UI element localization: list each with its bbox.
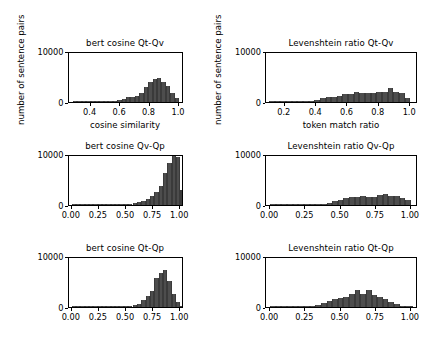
y-tick-label: 10000: [30, 252, 64, 262]
x-tick-label: 0.50: [330, 312, 348, 322]
subplot-title: bert cosine Qt-Qp: [68, 243, 183, 253]
x-tick-label: 1.00: [170, 312, 188, 322]
x-tick-mark: [284, 103, 285, 106]
x-tick-label: 0.50: [330, 210, 348, 220]
histogram-bar: [180, 190, 182, 205]
histogram-bar: [175, 98, 179, 102]
x-tick-label: 1.0: [403, 107, 416, 117]
x-tick-mark: [152, 206, 153, 209]
x-tick-mark: [315, 103, 316, 106]
x-tick-label: 1.0: [172, 107, 185, 117]
x-tick-mark: [375, 206, 376, 209]
y-tick-label: 0: [227, 303, 261, 313]
x-tick-label: 1.00: [170, 210, 188, 220]
y-tick-mark: [65, 155, 68, 156]
x-tick-label: 0.00: [260, 210, 278, 220]
histogram-figure: bert cosine Qt-Qv0.40.60.81.0010000cosin…: [0, 0, 435, 338]
y-tick-mark: [65, 52, 68, 53]
x-tick-label: 0.8: [142, 107, 155, 117]
x-tick-label: 0.4: [83, 107, 96, 117]
y-tick-label: 10000: [30, 150, 64, 160]
x-tick-label: 0.25: [295, 210, 313, 220]
y-tick-mark: [263, 155, 266, 156]
y-tick-mark: [263, 206, 266, 207]
x-tick-mark: [119, 103, 120, 106]
x-tick-mark: [269, 206, 270, 209]
plot-area: [265, 52, 417, 103]
x-tick-label: 0.50: [116, 210, 134, 220]
y-tick-label: 10000: [227, 252, 261, 262]
y-tick-mark: [65, 308, 68, 309]
y-tick-mark: [263, 52, 266, 53]
x-tick-mark: [346, 103, 347, 106]
histogram-bar: [180, 306, 182, 307]
subplot-title: Levenshtein ratio Qv-Qp: [265, 141, 417, 151]
y-tick-mark: [65, 103, 68, 104]
y-tick-label: 0: [30, 98, 64, 108]
x-tick-label: 1.00: [401, 210, 419, 220]
x-tick-label: 0.25: [89, 312, 107, 322]
y-tick-label: 10000: [30, 47, 64, 57]
y-tick-label: 0: [30, 201, 64, 211]
x-tick-label: 0.75: [366, 312, 384, 322]
x-tick-label: 0.50: [116, 312, 134, 322]
x-tick-mark: [152, 308, 153, 311]
plot-area: [265, 155, 417, 206]
x-tick-mark: [125, 206, 126, 209]
y-tick-mark: [263, 308, 266, 309]
y-tick-label: 10000: [227, 150, 261, 160]
y-tick-label: 10000: [227, 47, 261, 57]
x-tick-mark: [340, 206, 341, 209]
plot-area: [68, 52, 183, 103]
x-tick-mark: [179, 308, 180, 311]
y-tick-mark: [263, 257, 266, 258]
histogram-bars: [266, 53, 416, 102]
subplot-title: bert cosine Qv-Qp: [68, 141, 183, 151]
y-tick-label: 0: [30, 303, 64, 313]
x-tick-label: 0.00: [62, 210, 80, 220]
x-tick-label: 1.00: [401, 312, 419, 322]
x-tick-label: 0.8: [371, 107, 384, 117]
y-tick-mark: [65, 257, 68, 258]
x-tick-mark: [71, 206, 72, 209]
x-tick-label: 0.75: [366, 210, 384, 220]
x-tick-mark: [375, 308, 376, 311]
x-tick-label: 0.2: [277, 107, 290, 117]
x-tick-mark: [90, 103, 91, 106]
x-tick-mark: [304, 308, 305, 311]
x-tick-mark: [340, 308, 341, 311]
x-tick-mark: [179, 206, 180, 209]
plot-area: [68, 257, 183, 308]
x-tick-mark: [409, 103, 410, 106]
y-tick-label: 0: [227, 98, 261, 108]
y-tick-mark: [65, 206, 68, 207]
x-tick-mark: [304, 206, 305, 209]
x-tick-label: 0.6: [113, 107, 126, 117]
x-axis-label: cosine similarity: [68, 120, 183, 130]
x-tick-mark: [71, 308, 72, 311]
x-tick-mark: [98, 206, 99, 209]
x-tick-label: 0.75: [143, 312, 161, 322]
subplot-title: bert cosine Qt-Qv: [68, 38, 183, 48]
x-tick-label: 0.00: [62, 312, 80, 322]
plot-area: [68, 155, 183, 206]
y-tick-label: 0: [227, 201, 261, 211]
x-tick-mark: [378, 103, 379, 106]
histogram-bar: [405, 98, 411, 102]
subplot-title: Levenshtein ratio Qt-Qv: [265, 38, 417, 48]
histogram-bars: [69, 156, 182, 205]
x-tick-label: 0.75: [143, 210, 161, 220]
x-tick-mark: [125, 308, 126, 311]
x-tick-mark: [410, 206, 411, 209]
y-tick-mark: [263, 103, 266, 104]
x-tick-label: 0.4: [309, 107, 322, 117]
histogram-bar: [411, 306, 413, 307]
x-tick-mark: [149, 103, 150, 106]
x-axis-label: token match ratio: [265, 120, 417, 130]
x-tick-mark: [178, 103, 179, 106]
x-tick-mark: [98, 308, 99, 311]
x-tick-label: 0.00: [260, 312, 278, 322]
x-tick-label: 0.25: [89, 210, 107, 220]
histogram-bar: [405, 200, 411, 205]
x-tick-label: 0.25: [295, 312, 313, 322]
